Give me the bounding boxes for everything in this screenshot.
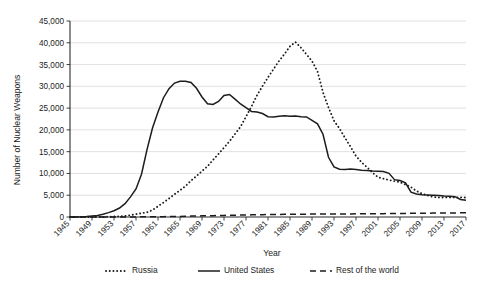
legend-label-rest-of-the-world: Rest of the world bbox=[336, 265, 399, 275]
y-tick-label: 30,000 bbox=[39, 82, 64, 91]
legend-label-russia: Russia bbox=[132, 265, 158, 275]
x-tick-label: 1953 bbox=[96, 219, 116, 239]
y-axis-title: Number of Nuclear Weapons bbox=[12, 75, 22, 186]
x-tick-label: 1973 bbox=[206, 219, 226, 239]
x-tick-label: 1949 bbox=[74, 219, 94, 239]
y-tick-label: 10,000 bbox=[39, 169, 64, 178]
x-tick-label: 1965 bbox=[162, 219, 182, 239]
chart-legend: RussiaUnited StatesRest of the world bbox=[106, 265, 399, 275]
y-tick-label: 15,000 bbox=[39, 148, 64, 157]
x-tick-label: 1961 bbox=[140, 219, 160, 239]
y-tick-label: 35,000 bbox=[39, 61, 64, 70]
x-tick-label: 1993 bbox=[316, 219, 336, 239]
grid-lines bbox=[70, 21, 466, 195]
x-tick-label: 2013 bbox=[426, 219, 446, 239]
x-tick-label: 2005 bbox=[382, 219, 402, 239]
x-tick-label: 1957 bbox=[118, 219, 138, 239]
legend-label-united-states: United States bbox=[224, 265, 274, 275]
y-tick-label: 5,000 bbox=[44, 191, 65, 200]
x-tick-label: 1945 bbox=[52, 219, 72, 239]
x-axis-title: Year bbox=[263, 248, 281, 258]
x-tick-label: 2009 bbox=[404, 219, 424, 239]
y-tick-label: 40,000 bbox=[39, 39, 64, 48]
y-tick-label: 25,000 bbox=[39, 104, 64, 113]
chart-figure: 05,00010,00015,00020,00025,00030,00035,0… bbox=[0, 0, 488, 283]
x-tick-label: 2017 bbox=[448, 219, 468, 239]
x-tick-label: 2001 bbox=[360, 219, 380, 239]
x-tick-label: 1981 bbox=[250, 219, 270, 239]
y-axis bbox=[67, 21, 71, 217]
nuclear-weapons-line-chart: 05,00010,00015,00020,00025,00030,00035,0… bbox=[0, 0, 488, 283]
y-tick-label: 20,000 bbox=[39, 126, 64, 135]
series-line-united-states bbox=[70, 81, 466, 217]
x-tick-label: 1997 bbox=[338, 219, 358, 239]
x-tick-label: 1985 bbox=[272, 219, 292, 239]
x-tick-label: 1977 bbox=[228, 219, 248, 239]
x-tick-labels: 1945194919531957196119651969197319771981… bbox=[52, 219, 468, 239]
x-tick-label: 1989 bbox=[294, 219, 314, 239]
y-tick-labels: 05,00010,00015,00020,00025,00030,00035,0… bbox=[39, 17, 64, 222]
x-tick-label: 1969 bbox=[184, 219, 204, 239]
y-tick-label: 45,000 bbox=[39, 17, 64, 26]
